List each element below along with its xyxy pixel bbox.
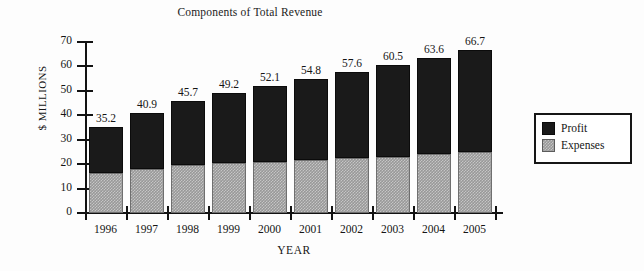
bar-value-label-1996: 35.2 bbox=[83, 112, 129, 124]
bar-segment-expenses-1997[interactable] bbox=[130, 169, 164, 213]
bar-value-label-2003: 60.5 bbox=[370, 50, 416, 62]
chart-title: Components of Total Revenue bbox=[0, 6, 500, 18]
bar-value-label-2001: 54.8 bbox=[288, 64, 334, 76]
bar-group-2002[interactable]: 57.6 bbox=[335, 42, 369, 213]
bar-group-2000[interactable]: 52.1 bbox=[253, 42, 287, 213]
bar-value-label-1999: 49.2 bbox=[206, 78, 252, 90]
bar-group-2005[interactable]: 66.7 bbox=[458, 42, 492, 213]
bar-segment-expenses-2002[interactable] bbox=[335, 158, 369, 213]
bar-segment-expenses-1999[interactable] bbox=[212, 163, 246, 213]
bar-value-label-1997: 40.9 bbox=[124, 98, 170, 110]
bar-segment-expenses-2000[interactable] bbox=[253, 162, 287, 213]
x-tick-label-2004: 2004 bbox=[413, 223, 454, 235]
bar-value-label-1998: 45.7 bbox=[165, 86, 211, 98]
bar-value-label-2002: 57.6 bbox=[329, 57, 375, 69]
bar-segment-profit-1998[interactable] bbox=[171, 101, 205, 164]
bar-segment-expenses-2005[interactable] bbox=[458, 152, 492, 213]
x-tick-label-2003: 2003 bbox=[372, 223, 413, 235]
bar-segment-profit-2005[interactable] bbox=[458, 50, 492, 152]
bar-group-2001[interactable]: 54.8 bbox=[294, 42, 328, 213]
chart-legend: ProfitExpenses bbox=[534, 113, 632, 164]
x-axis-title: YEAR bbox=[85, 244, 503, 256]
bar-value-label-2005: 66.7 bbox=[452, 35, 498, 47]
bar-group-1996[interactable]: 35.2 bbox=[89, 42, 123, 213]
bar-group-2003[interactable]: 60.5 bbox=[376, 42, 410, 213]
bar-segment-expenses-2003[interactable] bbox=[376, 157, 410, 213]
x-tick-label-1999: 1999 bbox=[208, 223, 249, 235]
x-tick-label-1997: 1997 bbox=[126, 223, 167, 235]
legend-label: Profit bbox=[561, 122, 587, 135]
y-tick-label: 60 bbox=[46, 58, 72, 70]
bar-segment-profit-1999[interactable] bbox=[212, 93, 246, 163]
bar-segment-profit-2000[interactable] bbox=[253, 86, 287, 162]
bar-segment-expenses-1996[interactable] bbox=[89, 173, 123, 213]
x-tick-label-1998: 1998 bbox=[167, 223, 208, 235]
bar-group-2004[interactable]: 63.6 bbox=[417, 42, 451, 213]
bar-group-1999[interactable]: 49.2 bbox=[212, 42, 246, 213]
bar-segment-expenses-2004[interactable] bbox=[417, 154, 451, 213]
bar-segment-profit-1997[interactable] bbox=[130, 113, 164, 169]
y-tick-label: 20 bbox=[46, 156, 72, 168]
y-tick-label: 30 bbox=[46, 132, 72, 144]
chart-figure: Components of Total Revenue $ MILLIONS 0… bbox=[0, 0, 644, 271]
x-tick-label-2000: 2000 bbox=[249, 223, 290, 235]
bar-group-1998[interactable]: 45.7 bbox=[171, 42, 205, 213]
legend-swatch-expenses-icon bbox=[542, 139, 555, 152]
x-tick-label-2005: 2005 bbox=[454, 223, 495, 235]
bar-segment-expenses-2001[interactable] bbox=[294, 160, 328, 213]
bar-group-1997[interactable]: 40.9 bbox=[130, 42, 164, 213]
bar-value-label-2000: 52.1 bbox=[247, 71, 293, 83]
legend-item-profit[interactable]: Profit bbox=[542, 122, 624, 135]
legend-label: Expenses bbox=[561, 139, 604, 152]
legend-item-expenses[interactable]: Expenses bbox=[542, 139, 624, 152]
bar-segment-expenses-1998[interactable] bbox=[171, 165, 205, 213]
x-tick bbox=[85, 206, 87, 220]
bar-segment-profit-2003[interactable] bbox=[376, 65, 410, 156]
y-tick-label: 0 bbox=[46, 205, 72, 217]
x-tick-label-2002: 2002 bbox=[331, 223, 372, 235]
bar-segment-profit-2004[interactable] bbox=[417, 58, 451, 154]
x-tick-label-2001: 2001 bbox=[290, 223, 331, 235]
y-tick-label: 50 bbox=[46, 83, 72, 95]
bar-segment-profit-2002[interactable] bbox=[335, 72, 369, 158]
y-tick-label: 70 bbox=[46, 34, 72, 46]
bar-segment-profit-2001[interactable] bbox=[294, 79, 328, 160]
plot-area: 35.240.945.749.252.154.857.660.563.666.7 bbox=[89, 42, 499, 213]
x-tick-label-1996: 1996 bbox=[85, 223, 126, 235]
bar-value-label-2004: 63.6 bbox=[411, 43, 457, 55]
y-tick-label: 40 bbox=[46, 107, 72, 119]
bar-segment-profit-1996[interactable] bbox=[89, 127, 123, 173]
y-tick-label: 10 bbox=[46, 181, 72, 193]
legend-swatch-profit-icon bbox=[542, 122, 555, 135]
